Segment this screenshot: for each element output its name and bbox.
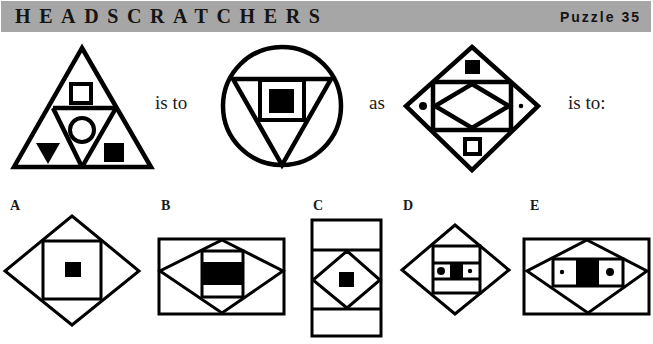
filled-square-icon <box>465 60 480 74</box>
filled-block-icon <box>576 259 599 286</box>
filled-square-icon <box>269 89 294 113</box>
filled-square-icon <box>65 262 81 277</box>
large-dot-icon <box>437 267 445 275</box>
large-dot-icon <box>606 268 614 276</box>
filled-band-icon <box>202 262 243 285</box>
figure-triangle <box>14 48 151 167</box>
filled-square-icon <box>339 272 354 287</box>
puzzle-figures <box>0 0 653 344</box>
filled-triangle-icon <box>36 143 60 164</box>
small-dot-icon <box>468 269 472 273</box>
filled-square-icon <box>104 143 124 162</box>
small-dot-icon <box>519 104 524 109</box>
small-dot-icon <box>560 270 564 274</box>
large-dot-icon <box>419 102 427 110</box>
filled-square-icon <box>450 263 463 279</box>
